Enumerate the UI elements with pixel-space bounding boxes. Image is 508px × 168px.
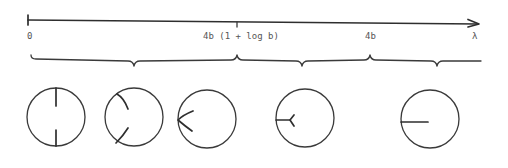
circle-1 bbox=[27, 88, 85, 146]
axis-label-lambda: λ bbox=[472, 31, 477, 41]
circle-5-outline bbox=[401, 90, 459, 148]
axis-line bbox=[28, 20, 478, 24]
circle-2 bbox=[105, 88, 163, 146]
circle-5 bbox=[401, 90, 459, 148]
circle-4-fork bbox=[290, 115, 294, 126]
tick-label-zero: 0 bbox=[27, 31, 32, 41]
interval-braces bbox=[31, 55, 481, 66]
circle-4 bbox=[276, 89, 334, 147]
circle-2-lower-segment bbox=[116, 128, 128, 143]
tick-label-4b-1-log-b: 4b (1 + log b) bbox=[203, 31, 279, 41]
circle-3-outline bbox=[178, 90, 236, 148]
circle-3 bbox=[178, 90, 236, 148]
circle-2-upper-segment bbox=[117, 94, 128, 109]
lambda-axis bbox=[28, 15, 479, 27]
circle-3-v-segments bbox=[178, 111, 193, 131]
diagram-canvas bbox=[0, 0, 508, 168]
phase-diagram: 0 4b (1 + log b) 4b λ bbox=[0, 0, 508, 168]
tick-label-4b: 4b bbox=[365, 31, 376, 41]
brace-line bbox=[31, 55, 481, 66]
circle-2-outline bbox=[105, 88, 163, 146]
circle-4-outline bbox=[276, 89, 334, 147]
